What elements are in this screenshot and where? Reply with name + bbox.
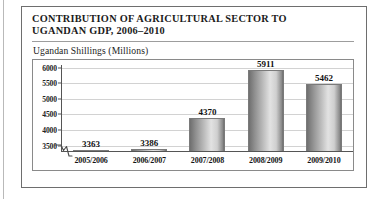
y-axis-tick-label: 6000 [42, 63, 57, 72]
bar[interactable] [189, 118, 225, 151]
y-axis-tick-label: 5500 [42, 79, 57, 88]
bar-slot: 3386 [120, 60, 178, 152]
chart-subtitle: Ugandan Shillings (Millions) [32, 42, 358, 59]
y-axis-tick [58, 83, 62, 84]
y-axis-tick [58, 129, 62, 130]
plot-area: 33633386437059115462 [62, 60, 353, 152]
bar-slot: 4370 [178, 60, 236, 152]
y-axis-tick [58, 98, 62, 99]
bar-value-label: 5462 [315, 73, 333, 83]
x-axis-tick-label: 2006/2007 [133, 156, 166, 165]
bar-slot: 3363 [62, 60, 120, 152]
y-axis-tick [58, 114, 62, 115]
x-axis-labels: 2005/20062006/20072007/20082008/20092009… [62, 152, 353, 170]
y-axis-tick [58, 67, 62, 68]
y-axis-tick-label: 5000 [42, 94, 57, 103]
bars-layer: 33633386437059115462 [62, 60, 353, 152]
plot-frame: 350040004500500055006000 336333864370591… [32, 59, 354, 171]
plot-body: 350040004500500055006000 336333864370591… [33, 60, 353, 170]
page-margin-rule [3, 0, 4, 199]
x-axis-tick-label: 2008/2009 [249, 156, 282, 165]
y-axis-labels: 350040004500500055006000 [33, 60, 60, 170]
y-axis-tick-label: 4000 [42, 125, 57, 134]
bar-slot: 5911 [237, 60, 295, 152]
y-axis-tick-label: 3500 [42, 141, 57, 150]
x-axis-tick-label: 2007/2008 [191, 156, 224, 165]
figure-container: CONTRIBUTION OF AGRICULTURAL SECTOR TO U… [21, 6, 367, 188]
y-axis-tick-label: 4500 [42, 110, 57, 119]
chart-title: CONTRIBUTION OF AGRICULTURAL SECTOR TO U… [32, 13, 358, 40]
x-axis-tick-label: 2005/2006 [74, 156, 107, 165]
figure-inner: CONTRIBUTION OF AGRICULTURAL SECTOR TO U… [32, 13, 358, 182]
bar-value-label: 4370 [198, 107, 216, 117]
x-axis-tick-label: 2009/2010 [307, 156, 340, 165]
bar-value-label: 5911 [257, 59, 275, 69]
bar[interactable] [306, 84, 342, 151]
bar-value-label: 3386 [140, 138, 158, 148]
bar-value-label: 3363 [82, 139, 100, 149]
bar-slot: 5462 [295, 60, 353, 152]
y-axis-tick [58, 145, 62, 146]
bar[interactable] [248, 70, 284, 151]
